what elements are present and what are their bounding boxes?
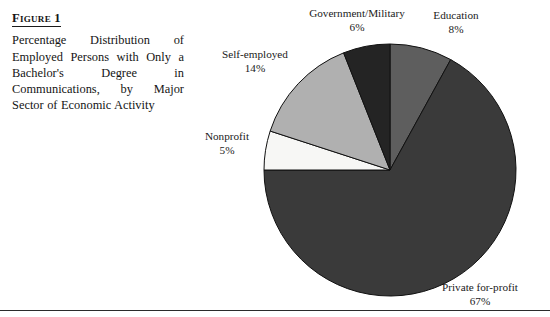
slice-label-government-military-name: Government/Military <box>309 7 405 19</box>
slice-label-private-for-profit: Private for-profit 67% <box>420 281 540 308</box>
slice-label-government-military: Government/Military 6% <box>293 7 421 34</box>
slice-label-private-for-profit-pct: 67% <box>420 295 540 309</box>
page-bottom-rule <box>0 310 550 311</box>
slice-label-nonprofit: Nonprofit 5% <box>186 130 268 157</box>
figure-page: Figure 1 Percentage Distribution of Empl… <box>0 0 550 317</box>
slice-label-self-employed: Self-employed 14% <box>203 48 307 75</box>
slice-label-government-military-pct: 6% <box>293 21 421 35</box>
slice-label-private-for-profit-name: Private for-profit <box>442 281 518 293</box>
pie-slice-group <box>264 44 516 296</box>
slice-label-nonprofit-pct: 5% <box>186 144 268 158</box>
slice-label-education-name: Education <box>433 9 478 21</box>
slice-label-self-employed-name: Self-employed <box>222 48 288 60</box>
slice-label-education: Education 8% <box>417 9 495 36</box>
slice-label-self-employed-pct: 14% <box>203 62 307 76</box>
slice-label-education-pct: 8% <box>417 23 495 37</box>
slice-label-nonprofit-name: Nonprofit <box>205 130 249 142</box>
